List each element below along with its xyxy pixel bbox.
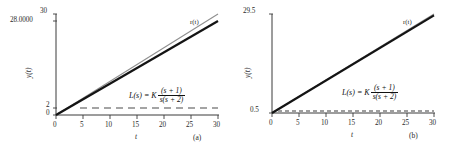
- panel-a-equation-annotation: L(s) = K(s + 1)s(s + 2): [129, 88, 185, 104]
- panel-b-equation-lhs: L(s) = K: [342, 88, 370, 97]
- panel-b-equation-fraction: (s + 1)s(s + 2): [371, 84, 399, 100]
- panel-b-xtick-0: 0: [269, 119, 273, 127]
- panel-b-equation-annotation: L(s) = K(s + 1)s(s + 2): [342, 85, 398, 101]
- panel-a-xtick-15: 15: [132, 121, 139, 129]
- panel-a-xtick-0: 0: [53, 121, 57, 129]
- panel-a-x-axis-label: t: [135, 132, 137, 141]
- panel-b: 29.5 0.5 0 5 10 15 20 25 30 y(t) t r(t) …: [230, 0, 460, 153]
- panel-b-xtick-25: 25: [402, 119, 409, 127]
- panel-a-xtick-25: 25: [186, 121, 193, 129]
- panel-a-equation-lhs: L(s) = K: [129, 91, 157, 100]
- panel-b-xtick-15: 15: [348, 119, 355, 127]
- panel-a-x-ticks: [56, 115, 218, 119]
- panel-a-y-axis-label: y(t): [24, 68, 33, 78]
- panel-b-ytick-0-5: 0.5: [250, 106, 259, 114]
- panel-b-plot: [230, 0, 460, 153]
- panel-a-ytick-0: 0: [46, 109, 50, 117]
- panel-b-xtick-30: 30: [429, 119, 436, 127]
- panel-b-equation-denominator: s(s + 2): [371, 92, 399, 101]
- panel-a: 30 28.0000 2 0 0 5 10 15 20 25 30 y(t) t…: [0, 0, 230, 153]
- panel-b-caption: (b): [409, 131, 418, 140]
- panel-b-equation-numerator: (s + 1): [371, 84, 399, 92]
- panel-a-xtick-5: 5: [80, 121, 84, 129]
- panel-a-caption: (a): [193, 133, 201, 142]
- panel-a-ytick-28: 28.0000: [10, 16, 33, 24]
- panel-a-xtick-20: 20: [159, 121, 166, 129]
- figure-ramp-responses: 30 28.0000 2 0 0 5 10 15 20 25 30 y(t) t…: [0, 0, 460, 153]
- panel-a-xtick-10: 10: [105, 121, 112, 129]
- panel-b-xtick-10: 10: [321, 119, 328, 127]
- panel-a-ytick-2: 2: [46, 101, 50, 109]
- panel-b-x-axis-label: t: [351, 130, 353, 139]
- panel-a-equation-fraction: (s + 1)s(s + 2): [158, 87, 186, 103]
- panel-b-y-axis-label: y(t): [243, 68, 252, 78]
- panel-b-x-ticks: [272, 113, 434, 117]
- panel-b-curve-label-rt: r(t): [403, 18, 412, 25]
- panel-b-xtick-5: 5: [296, 119, 300, 127]
- panel-a-ytick-30: 30: [40, 7, 47, 15]
- panel-a-equation-numerator: (s + 1): [158, 87, 186, 95]
- panel-a-equation-denominator: s(s + 2): [158, 95, 186, 104]
- panel-b-ytick-29-5: 29.5: [243, 7, 255, 15]
- panel-a-curve-label-rt: r(t): [190, 18, 199, 25]
- panel-b-xtick-20: 20: [375, 119, 382, 127]
- panel-a-xtick-30: 30: [213, 121, 220, 129]
